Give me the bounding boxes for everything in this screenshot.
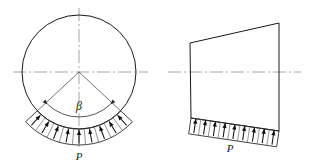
right-band-divider-8 bbox=[267, 130, 269, 146]
band-divider-6 bbox=[59, 127, 63, 142]
load-arrowhead-4 bbox=[77, 130, 81, 135]
right-load-arrowhead-4 bbox=[232, 125, 236, 130]
band-divider-4 bbox=[84, 129, 85, 145]
right-load-arrowhead-2 bbox=[213, 122, 217, 127]
right-load-arrowhead-3 bbox=[222, 123, 226, 128]
band-divider-3 bbox=[94, 127, 98, 142]
angle-label-beta: β bbox=[75, 99, 82, 113]
right-band-divider-3 bbox=[218, 122, 220, 138]
radial-line-1 bbox=[37, 72, 79, 111]
right-load-arrowhead-1 bbox=[203, 120, 207, 125]
right-band-divider-6 bbox=[247, 127, 249, 143]
left-load-label-p: P bbox=[75, 150, 83, 162]
band-divider-5 bbox=[72, 129, 73, 145]
right-load-arrowhead-6 bbox=[252, 127, 256, 132]
right-band-divider-5 bbox=[238, 125, 240, 141]
right-band-divider-2 bbox=[208, 121, 210, 137]
engineering-diagram: β P P bbox=[0, 0, 311, 168]
figure-root: β P P bbox=[0, 0, 311, 168]
right-band-divider-4 bbox=[228, 124, 230, 140]
right-load-arrowhead-0 bbox=[193, 119, 197, 124]
right-load-arrowhead-5 bbox=[242, 126, 246, 131]
load-arrowhead-5 bbox=[66, 129, 70, 134]
right-band-divider-1 bbox=[198, 119, 200, 135]
right-block-outline bbox=[190, 23, 279, 131]
load-arrowhead-2 bbox=[100, 126, 104, 131]
right-diagram-group: P bbox=[168, 23, 301, 154]
radial-line-0 bbox=[79, 72, 121, 111]
right-load-arrowhead-7 bbox=[262, 129, 266, 134]
right-band-divider-7 bbox=[257, 128, 259, 144]
right-load-arrowhead-8 bbox=[271, 130, 275, 135]
load-arrowhead-3 bbox=[88, 129, 92, 134]
load-arrowhead-6 bbox=[55, 126, 59, 131]
right-load-label-p: P bbox=[226, 142, 234, 154]
left-diagram-group: β P bbox=[13, 8, 148, 162]
